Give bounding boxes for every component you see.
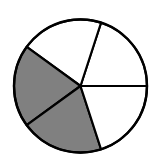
pie-svg (0, 0, 159, 158)
fraction-circle-diagram (0, 0, 159, 158)
